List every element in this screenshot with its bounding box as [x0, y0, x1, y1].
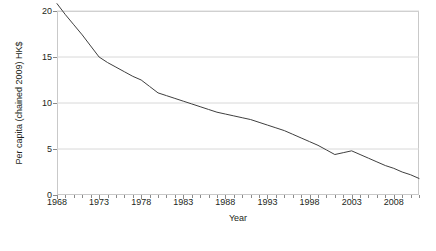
x-axis-tick-mark [166, 195, 167, 198]
x-axis-tick-mark [301, 195, 302, 198]
x-axis-tick-mark [419, 195, 420, 198]
x-axis-tick-mark [57, 195, 58, 199]
x-axis-tick-mark [141, 195, 142, 199]
chart-container: Per capita (chained 2009) HK$ 05101520 1… [0, 0, 436, 251]
x-axis-tick-mark [360, 195, 361, 198]
x-axis-tick-mark [82, 195, 83, 198]
y-axis-tick-mark [53, 11, 57, 12]
x-axis-tick-mark [402, 195, 403, 198]
x-axis-tick-mark [74, 195, 75, 198]
x-axis-tick-label: 1968 [37, 198, 77, 207]
x-axis-tick-label: 2008 [374, 198, 414, 207]
y-axis-tick-label: 15 [28, 53, 52, 62]
x-axis-tick-mark [242, 195, 243, 198]
x-axis-tick-mark [276, 195, 277, 198]
x-axis-tick-mark [133, 195, 134, 198]
x-axis-tick-mark [65, 195, 66, 198]
x-axis-tick-mark [343, 195, 344, 198]
x-axis-tick-label: 2003 [332, 198, 372, 207]
x-axis-tick-mark [326, 195, 327, 198]
x-axis-tick-label: 1993 [247, 198, 287, 207]
x-axis-tick-mark [259, 195, 260, 198]
x-axis-tick-mark [99, 195, 100, 199]
gridlines [57, 11, 419, 149]
x-axis-tick-label: 1998 [290, 198, 330, 207]
x-axis-tick-mark [124, 195, 125, 198]
x-axis-tick-mark [108, 195, 109, 198]
x-axis-tick-label: 1978 [121, 198, 161, 207]
y-axis-tick-mark [53, 149, 57, 150]
x-axis-tick-mark [411, 195, 412, 198]
x-axis-tick-label: 1988 [205, 198, 245, 207]
x-axis-tick-mark [91, 195, 92, 198]
y-axis-tick-mark [53, 103, 57, 104]
x-axis-tick-mark [310, 195, 311, 199]
x-axis-title: Year [57, 213, 419, 224]
x-axis-tick-label: 1983 [163, 198, 203, 207]
x-axis-tick-mark [293, 195, 294, 198]
x-axis-tick-mark [192, 195, 193, 198]
x-axis-tick-label: 1973 [79, 198, 119, 207]
x-axis-tick-mark [116, 195, 117, 198]
x-axis-tick-mark [368, 195, 369, 198]
x-axis-tick-mark [318, 195, 319, 198]
y-axis-tick-label: 20 [28, 7, 52, 16]
x-axis-tick-mark [377, 195, 378, 198]
x-axis-tick-mark [352, 195, 353, 199]
x-axis-tick-mark [394, 195, 395, 199]
data-series-line [57, 4, 419, 179]
x-axis-tick-mark [175, 195, 176, 198]
x-axis-tick-mark [158, 195, 159, 198]
x-axis-tick-mark [385, 195, 386, 198]
x-axis-tick-mark [284, 195, 285, 198]
x-axis-tick-mark [200, 195, 201, 198]
x-axis-tick-mark [217, 195, 218, 198]
x-axis-tick-mark [251, 195, 252, 198]
x-axis-tick-mark [234, 195, 235, 198]
x-axis-tick-mark [209, 195, 210, 198]
x-axis-tick-mark [150, 195, 151, 198]
y-axis-tick-mark [53, 57, 57, 58]
y-axis-tick-label: 5 [28, 145, 52, 154]
x-axis-tick-mark [335, 195, 336, 198]
x-axis-tick-mark [183, 195, 184, 199]
y-axis-tick-label: 10 [28, 99, 52, 108]
x-axis-tick-mark [225, 195, 226, 199]
x-axis-tick-mark [267, 195, 268, 199]
